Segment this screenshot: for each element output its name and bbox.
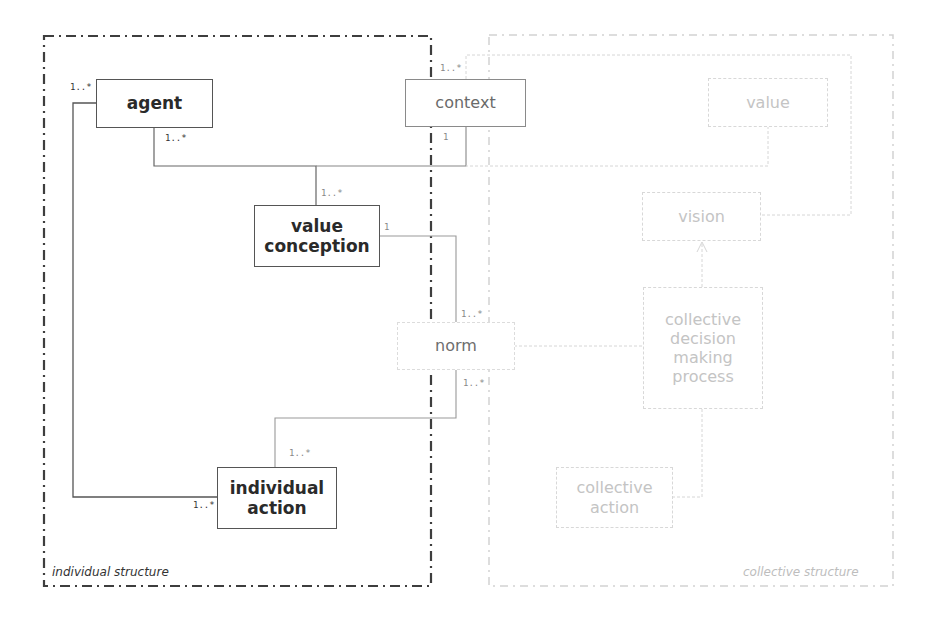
multiplicity-context-top: 1..* [440,63,462,73]
collective-action-class-box: collective action [556,467,673,528]
multiplicity-agent-bottom: 1..* [165,133,187,143]
individual-action-class-box: individual action [217,467,337,529]
agent-label: agent [127,93,182,113]
multiplicity-norm-top: 1..* [461,309,483,319]
multiplicity-value-conception-top: 1..* [321,188,343,198]
multiplicity-individual-action-left: 1..* [193,500,215,510]
context-class-box: context [405,79,526,127]
edge-collective-action-decision [672,408,702,497]
edge-value-conception-norm [379,236,456,322]
collective-decision-class-box: collective decision making process [643,287,763,409]
agent-class-box: agent [96,79,213,128]
norm-class-box: norm [397,322,515,370]
uml-diagram: agent value conception individual action… [0,0,927,621]
collective-structure-label: collective structure [743,565,859,579]
context-label: context [435,93,495,112]
value-class-box: value [708,78,828,127]
value-label: value [746,93,790,112]
value-conception-label: value conception [264,216,369,257]
individual-structure-label: individual structure [52,565,169,579]
value-conception-class-box: value conception [254,205,380,267]
multiplicity-individual-action-top: 1..* [289,448,311,458]
norm-label: norm [435,336,477,355]
collective-action-label: collective action [576,478,652,516]
vision-class-box: vision [642,192,761,241]
vision-label: vision [678,207,725,226]
individual-action-label: individual action [230,478,324,519]
multiplicity-value-conception-right: 1 [384,222,389,232]
collective-decision-label: collective decision making process [665,310,741,387]
edge-agent-individual-action [73,103,217,497]
multiplicity-agent-left: 1..* [70,82,92,92]
edge-value-context [466,126,768,166]
multiplicity-context-bottom: 1 [443,132,448,142]
multiplicity-norm-bottom: 1..* [463,378,485,388]
